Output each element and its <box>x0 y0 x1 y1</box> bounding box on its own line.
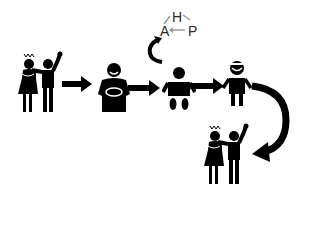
curved-arrow-icon <box>146 34 170 66</box>
arrow-right-2 <box>128 80 160 96</box>
mother-holding-baby-icon <box>96 62 132 114</box>
arrow-right-icon <box>128 80 160 96</box>
violence-scene-icon <box>198 122 256 188</box>
arrow-right-3 <box>190 78 224 94</box>
curved-arrow-up <box>146 34 170 66</box>
mother-figure <box>96 62 132 114</box>
arrow-right-1 <box>62 76 92 92</box>
arrow-right-icon <box>62 76 92 92</box>
violence-scene-2 <box>198 122 256 188</box>
arrow-right-icon <box>190 78 224 94</box>
